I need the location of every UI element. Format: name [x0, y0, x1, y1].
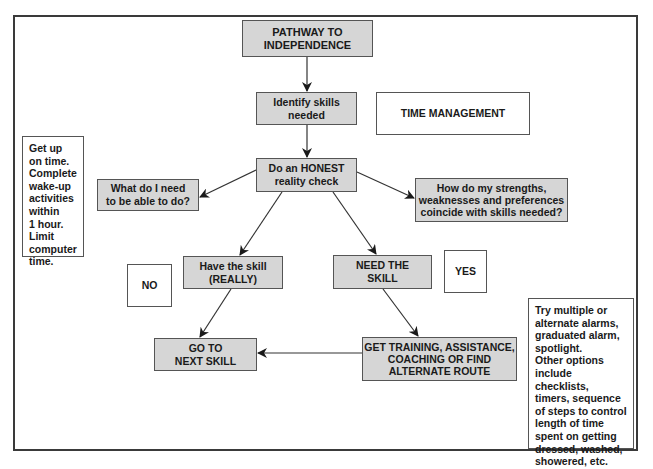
node-honest-reality-check: Do an HONEST reality check — [256, 158, 357, 192]
arrow-haveskill-gonext — [200, 289, 231, 337]
label-yes: YES — [444, 250, 487, 293]
node-have-the-skill: Have the skill (REALLY) — [183, 256, 283, 289]
arrow-honest-whatneed — [200, 170, 256, 197]
node-need-the-skill: NEED THE SKILL — [333, 255, 432, 289]
node-strengths-weaknesses: How do my strengths, weaknesses and pref… — [415, 178, 568, 222]
arrow-honest-needskill — [333, 192, 376, 254]
topic-label-time-management: TIME MANAGEMENT — [376, 92, 530, 135]
node-identify-skills: Identify skills needed — [256, 92, 357, 125]
node-pathway-to-independence: PATHWAY TO INDEPENDENCE — [242, 20, 373, 57]
node-go-to-next-skill: GO TO NEXT SKILL — [154, 338, 257, 371]
arrow-honest-haveskill — [240, 192, 282, 255]
arrow-needskill-training — [383, 289, 418, 336]
note-left-time-tips: Get up on time. Complete wake-up activit… — [22, 136, 84, 257]
arrow-honest-strengths — [357, 172, 414, 198]
note-right-alarm-tips: Try multiple or alternate alarms, gradua… — [528, 298, 634, 449]
node-get-training: GET TRAINING, ASSISTANCE, COACHING OR FI… — [362, 337, 517, 381]
node-what-do-i-need: What do I need to be able to do? — [97, 179, 199, 211]
label-no: NO — [127, 264, 172, 307]
